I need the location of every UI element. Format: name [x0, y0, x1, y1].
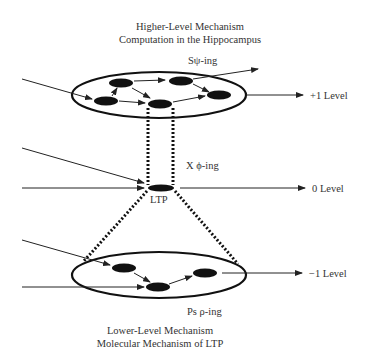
entity-node: [169, 77, 193, 86]
higher-level-title-line2: Computation in the Hippocampus: [90, 33, 290, 46]
input-arrow: [22, 148, 144, 183]
higher-level-title-line1: Higher-Level Mechanism: [90, 20, 290, 33]
ltp-label: LTP: [150, 193, 168, 206]
entity-node: [94, 97, 118, 106]
mechanism-diagram: [0, 0, 372, 358]
internal-arrows: [134, 273, 192, 284]
ltp-node: [148, 185, 174, 192]
middle-process-label: X ϕ-ing: [186, 159, 219, 172]
level-plus1-label: +1 Level: [310, 89, 348, 102]
lower-level-title-line1: Lower-Level Mechanism: [60, 324, 260, 337]
level-0-label: 0 Level: [312, 182, 344, 195]
higher-level-title: Higher-Level Mechanism Computation in th…: [90, 20, 290, 46]
lower-level-title-line2: Molecular Mechanism of LTP: [60, 337, 260, 350]
entity-node: [109, 79, 133, 88]
dotted-column: [148, 108, 173, 185]
ltp-level: [22, 148, 305, 192]
level-minus1-label: −1 Level: [309, 267, 347, 280]
input-arrow: [22, 240, 110, 265]
input-arrow: [22, 79, 92, 99]
entity-node: [146, 283, 170, 292]
entity-node: [112, 264, 136, 273]
lower-level-mechanism: [22, 240, 302, 298]
top-process-label: Sψ-ing: [188, 54, 217, 67]
lower-level-title: Lower-Level Mechanism Molecular Mechanis…: [60, 324, 260, 350]
entity-node: [193, 269, 217, 278]
entity-node: [207, 91, 231, 100]
entity-node: [148, 100, 172, 109]
higher-level-mechanism: [22, 69, 303, 118]
bottom-process-label: Ps ρ-ing: [187, 305, 222, 318]
